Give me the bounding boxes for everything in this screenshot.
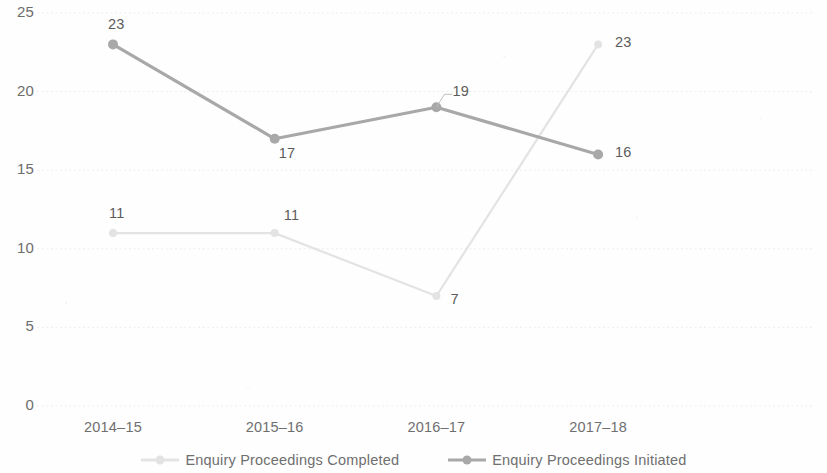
x-axis-tick-label: 2017–18 xyxy=(538,419,658,435)
data-point-marker xyxy=(109,229,117,237)
gridlines xyxy=(37,13,812,406)
data-point-label: 11 xyxy=(284,207,299,223)
legend-marker-icon xyxy=(447,453,487,467)
data-point-marker xyxy=(270,134,280,144)
data-point-label: 16 xyxy=(615,144,632,160)
data-point-label: 7 xyxy=(450,291,458,307)
data-point-label: 19 xyxy=(452,83,469,99)
legend-item-label: Enquiry Proceedings Completed xyxy=(185,452,399,468)
legend-item-label: Enquiry Proceedings Initiated xyxy=(492,452,686,468)
data-point-marker xyxy=(593,150,603,160)
line-chart: 0510152025 2014–152015–162016–172017–18 … xyxy=(0,0,827,473)
x-axis-tick-label: 2014–15 xyxy=(53,419,173,435)
data-point-label: 23 xyxy=(615,34,632,50)
chart-legend: Enquiry Proceedings CompletedEnquiry Pro… xyxy=(0,452,827,468)
y-axis-tick-label: 25 xyxy=(0,3,34,20)
y-axis-tick-label: 0 xyxy=(0,396,34,413)
y-axis-tick-label: 15 xyxy=(0,160,34,177)
y-axis-tick-label: 20 xyxy=(0,82,34,99)
data-point-label: 23 xyxy=(108,16,125,32)
series-line xyxy=(113,44,598,154)
x-axis-tick-label: 2016–17 xyxy=(376,419,496,435)
data-point-marker xyxy=(432,292,440,300)
x-axis-tick-label: 2015–16 xyxy=(215,419,335,435)
y-axis-tick-label: 5 xyxy=(0,317,34,334)
data-point-label: 11 xyxy=(109,205,124,221)
data-point-marker xyxy=(594,40,602,48)
legend-item[interactable]: Enquiry Proceedings Initiated xyxy=(447,452,686,468)
data-point-label: 17 xyxy=(279,145,296,161)
y-axis-tick-label: 10 xyxy=(0,239,34,256)
data-point-marker xyxy=(108,39,118,49)
legend-item[interactable]: Enquiry Proceedings Completed xyxy=(140,452,399,468)
legend-marker-icon xyxy=(140,453,180,467)
chart-plot-area xyxy=(0,0,827,473)
data-point-marker xyxy=(271,229,279,237)
